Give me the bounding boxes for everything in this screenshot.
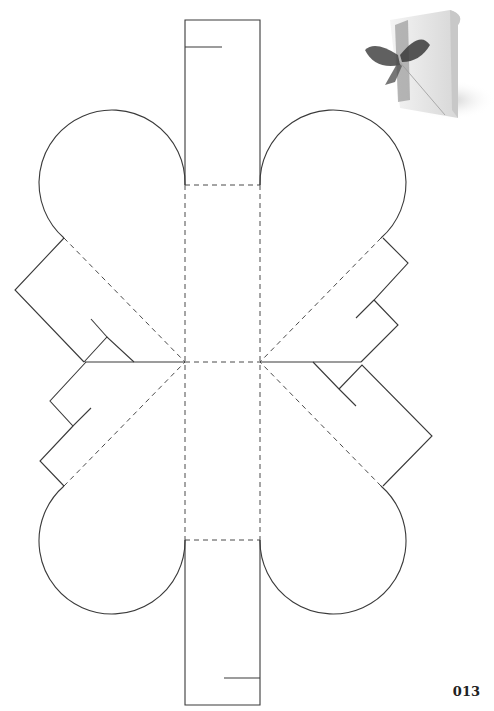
center-strip [185,20,260,705]
gift-box-photo [340,0,494,125]
heart-lobe-bottom-right [260,486,406,614]
page-number: 013 [453,684,480,699]
glue-tab-left-upper [15,238,134,362]
glue-tab-right-lower [313,362,432,486]
heart-lobe-top-right [260,110,406,238]
glue-tab-right-upper [356,238,408,362]
glue-tab-left-lower [40,362,91,486]
gift-box-illustration [340,0,494,125]
heart-lobe-top-left [39,110,185,238]
heart-lobe-bottom-left [39,486,185,614]
